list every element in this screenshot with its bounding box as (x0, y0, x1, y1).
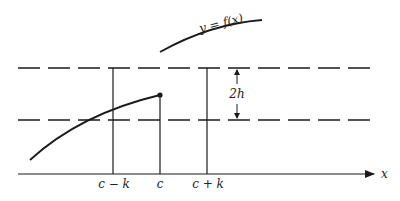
band-height-label: 2h (228, 87, 244, 101)
x-axis-label: x (381, 167, 388, 181)
endpoint-dot (157, 92, 162, 97)
curve-left-branch (30, 95, 160, 160)
tick-label-c-minus-k: c − k (98, 177, 130, 191)
curve-label: y = f(x) (197, 11, 245, 36)
tick-label-c: c (157, 177, 164, 191)
continuity-diagram: 2h y = f(x) x c − k c c + k (0, 0, 400, 201)
tick-label-c-plus-k: c + k (192, 177, 224, 191)
